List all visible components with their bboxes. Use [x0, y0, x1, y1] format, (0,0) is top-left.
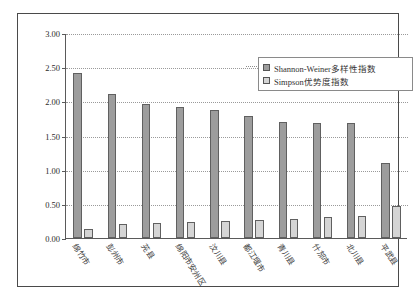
- y-axis-label: 0.00: [45, 234, 60, 244]
- bar-shannon-weiner: [347, 123, 356, 238]
- y-axis-tick: [62, 137, 66, 138]
- legend-label-simpson: Simpson优势度指数: [274, 75, 349, 87]
- bar-shannon-weiner: [279, 122, 288, 238]
- bar-simpson: [392, 206, 401, 238]
- bar-simpson: [221, 221, 230, 238]
- bar-simpson: [255, 220, 264, 238]
- legend-item-simpson: Simpson优势度指数: [263, 74, 407, 87]
- chart-legend: Shannon-Weiner多样性指数 Simpson优势度指数: [258, 57, 413, 91]
- x-axis-category-label: 都江堰市: [242, 241, 268, 274]
- bar-simpson: [119, 224, 128, 238]
- bar-simpson: [84, 229, 93, 238]
- bar-shannon-weiner: [108, 94, 117, 238]
- x-axis-category-label: 平武县: [379, 241, 401, 267]
- y-axis-tick: [62, 68, 66, 69]
- x-axis-category-label: 什邡市: [310, 241, 332, 267]
- clipped-caption-text: [8, 0, 188, 9]
- bar-shannon-weiner: [313, 123, 322, 238]
- y-axis-label: 3.00: [45, 29, 60, 39]
- x-axis-category-label: 绵阳市安州区: [173, 241, 208, 288]
- y-axis-label: 1.50: [45, 132, 60, 142]
- legend-item-shannon: Shannon-Weiner多样性指数: [263, 61, 407, 74]
- bar-shannon-weiner: [381, 163, 390, 238]
- x-axis-category-label: 北川县: [344, 241, 366, 267]
- bar-simpson: [290, 219, 299, 238]
- bar-group: [108, 34, 128, 238]
- bar-group: [176, 34, 196, 238]
- bar-shannon-weiner: [210, 110, 219, 238]
- bar-group: [73, 34, 93, 238]
- bar-shannon-weiner: [142, 104, 151, 238]
- bar-shannon-weiner: [244, 116, 253, 238]
- y-axis-label: 2.00: [45, 97, 60, 107]
- legend-swatch-icon-simpson: [263, 77, 270, 84]
- bar-simpson: [153, 223, 162, 238]
- x-axis-category-label: 彭州市: [105, 241, 127, 267]
- bar-group: [142, 34, 162, 238]
- x-axis-category-label: 茪县: [139, 241, 157, 260]
- y-axis-tick: [62, 102, 66, 103]
- y-axis-tick: [62, 171, 66, 172]
- y-axis-tick: [62, 205, 66, 206]
- legend-label-shannon: Shannon-Weiner多样性指数: [274, 62, 376, 74]
- x-axis-category-label: 绵竹市: [71, 241, 93, 267]
- y-axis-tick: [62, 239, 66, 240]
- bar-simpson: [358, 216, 367, 238]
- bar-simpson: [324, 217, 333, 238]
- x-axis-category-label: 汶川县: [208, 241, 230, 267]
- y-axis-label: 1.00: [45, 166, 60, 176]
- bar-shannon-weiner: [73, 73, 82, 238]
- y-axis-tick: [62, 34, 66, 35]
- y-axis-label: 0.50: [45, 200, 60, 210]
- bar-group: [210, 34, 230, 238]
- chart-screenshot: 0.000.501.001.502.002.503.00 绵竹市彭州市茪县绵阳市…: [0, 0, 413, 301]
- y-axis-label: 2.50: [45, 63, 60, 73]
- bar-shannon-weiner: [176, 107, 185, 238]
- chart-outer-frame: 0.000.501.001.502.002.503.00 绵竹市彭州市茪县绵阳市…: [17, 13, 399, 287]
- x-axis-category-label: 青川县: [276, 241, 298, 267]
- legend-swatch-icon-shannon: [263, 64, 270, 71]
- bar-simpson: [187, 222, 196, 238]
